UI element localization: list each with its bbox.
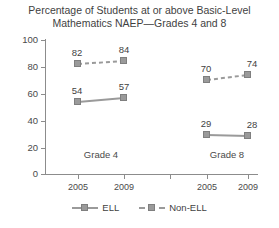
data-label-nonell-grade4-2009: 84 — [112, 45, 136, 55]
chart-title-line-1: Percentage of Students at or above Basic… — [0, 4, 279, 17]
y-axis-label-20: 20 — [8, 143, 38, 152]
data-point-nonell-grade4-2009[interactable] — [120, 57, 127, 64]
data-label-nonell-grade4-2005: 82 — [65, 48, 89, 58]
y-axis-label-80: 80 — [8, 62, 38, 71]
legend-marker-square-icon — [148, 204, 155, 211]
x-axis-tick-g8-2005 — [207, 174, 208, 179]
chart-title: Percentage of Students at or above Basic… — [0, 4, 279, 30]
y-axis-tick-40 — [41, 121, 46, 122]
data-label-nonell-grade8-2005: 70 — [194, 64, 218, 74]
chart-container: Percentage of Students at or above Basic… — [0, 0, 279, 228]
legend-label-ell: ELL — [102, 202, 119, 213]
legend-label-nonell: Non-ELL — [169, 202, 207, 213]
data-point-ell-grade8-2009[interactable] — [244, 132, 251, 139]
group-label-grade-8: Grade 8 — [197, 150, 257, 160]
data-label-nonell-grade8-2009: 74 — [240, 59, 264, 69]
x-axis-tick-g4-2005 — [78, 174, 79, 179]
legend-key-ell-icon — [72, 203, 98, 212]
data-label-ell-grade4-2005: 54 — [65, 86, 89, 96]
y-axis-line — [45, 39, 46, 175]
data-point-ell-grade4-2009[interactable] — [120, 94, 127, 101]
x-axis-tick-divider — [170, 174, 171, 179]
data-label-ell-grade8-2005: 29 — [194, 119, 218, 129]
legend-item-ell[interactable]: ELL — [72, 202, 119, 213]
x-axis-label-g4-2009: 2009 — [107, 182, 141, 192]
chart-title-line-2: Mathematics NAEP—Grades 4 and 8 — [0, 17, 279, 30]
x-axis-line — [45, 174, 258, 175]
x-axis-label-g8-2005: 2005 — [190, 182, 224, 192]
legend-key-nonell-icon — [139, 203, 165, 212]
nonell-line-grade-4 — [78, 61, 124, 64]
y-axis-tick-20 — [41, 148, 46, 149]
x-axis-label-g4-2005: 2005 — [61, 182, 95, 192]
y-axis-label-60: 60 — [8, 89, 38, 98]
group-label-grade-4: Grade 4 — [71, 150, 131, 160]
data-point-nonell-grade8-2005[interactable] — [203, 76, 210, 83]
x-axis-tick-g4-2009 — [124, 174, 125, 179]
ell-line-grade-4 — [78, 98, 124, 102]
y-axis-label-40: 40 — [8, 116, 38, 125]
y-axis-tick-100 — [41, 40, 46, 41]
chart-legend: ELL Non-ELL — [0, 202, 279, 213]
legend-marker-square-icon — [81, 204, 88, 211]
y-axis-label-0: 0 — [8, 169, 38, 178]
data-point-nonell-grade8-2009[interactable] — [244, 71, 251, 78]
data-point-nonell-grade4-2005[interactable] — [74, 60, 81, 67]
x-axis-label-g8-2009: 2009 — [231, 182, 265, 192]
y-axis-label-100: 100 — [8, 35, 38, 44]
series-lines — [0, 0, 279, 228]
data-label-ell-grade4-2009: 57 — [112, 82, 136, 92]
y-axis-tick-0 — [41, 174, 46, 175]
data-label-ell-grade8-2009: 28 — [240, 120, 264, 130]
y-axis-tick-60 — [41, 94, 46, 95]
ell-line-grade-8 — [207, 135, 248, 136]
legend-item-nonell[interactable]: Non-ELL — [139, 202, 207, 213]
x-axis-tick-g8-2009 — [248, 174, 249, 179]
data-point-ell-grade4-2005[interactable] — [74, 98, 81, 105]
data-point-ell-grade8-2005[interactable] — [203, 131, 210, 138]
nonell-line-grade-8 — [207, 75, 248, 80]
y-axis-tick-80 — [41, 67, 46, 68]
